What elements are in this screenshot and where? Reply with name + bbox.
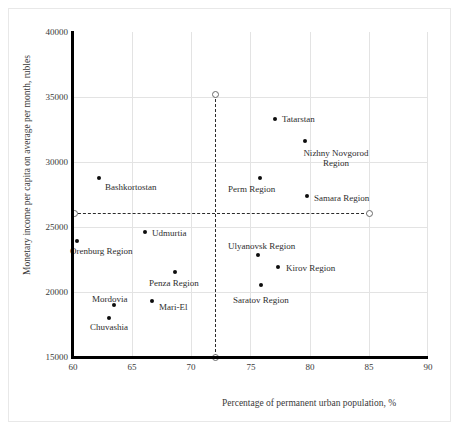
data-label-tatarstan: Tatarstan: [282, 114, 315, 124]
gridline-horizontal: [73, 162, 428, 163]
data-label-nizhny-novgorod-region: Nizhny Novgorod Region: [301, 148, 371, 168]
y-tick-label-15000: 15000: [22, 352, 68, 362]
gridline-vertical: [191, 32, 192, 357]
data-point-ulyanovsk-region[interactable]: [256, 253, 260, 257]
median-vertical-top-marker: [212, 91, 219, 98]
gridline-horizontal: [73, 292, 428, 293]
chart-screenshot: 40000 35000 30000 25000 20000 15000 60 6…: [0, 0, 461, 431]
x-tick-label-85: 85: [349, 362, 389, 372]
data-point-nizhny-novgorod-region[interactable]: [303, 139, 307, 143]
data-label-ulyanovsk-region: Ulyanovsk Region: [228, 241, 295, 251]
gridline-vertical: [427, 32, 428, 357]
data-point-chuvashia[interactable]: [107, 316, 111, 320]
data-point-udmurtia[interactable]: [143, 230, 147, 234]
x-tick-label-60: 60: [53, 362, 93, 372]
data-point-samara-region[interactable]: [305, 194, 309, 198]
x-tick-label-70: 70: [171, 362, 211, 372]
data-label-bashkortostan: Bashkortostan: [105, 182, 157, 192]
median-horizontal-right-marker: [366, 210, 373, 217]
data-label-kirov-region: Kirov Region: [286, 263, 335, 273]
data-label-samara-region: Samara Region: [314, 193, 369, 203]
median-line-horizontal: [73, 213, 369, 214]
data-point-orenburg-region[interactable]: [75, 239, 79, 243]
x-axis-line: [71, 356, 428, 359]
scatter-chart: 40000 35000 30000 25000 20000 15000 60 6…: [0, 0, 461, 431]
x-tick-label-90: 90: [408, 362, 448, 372]
gridline-horizontal: [73, 97, 428, 98]
median-line-vertical: [215, 94, 216, 357]
data-point-tatarstan[interactable]: [273, 117, 277, 121]
y-axis-title: Monetary income per capita on average pe…: [22, 20, 32, 310]
data-point-penza-region[interactable]: [173, 270, 177, 274]
data-point-bashkortostan[interactable]: [97, 176, 101, 180]
data-label-orenburg-region: Orenburg Region: [70, 246, 133, 256]
data-label-udmurtia: Udmurtia: [152, 228, 187, 238]
x-tick-label-75: 75: [231, 362, 271, 372]
data-label-mari-el: Mari-El: [159, 302, 188, 312]
x-tick-label-80: 80: [290, 362, 330, 372]
gridline-horizontal: [73, 227, 428, 228]
y-axis-line: [71, 31, 74, 359]
gridline-vertical: [132, 32, 133, 357]
x-axis-title: Percentage of permanent urban population…: [222, 398, 396, 408]
data-point-saratov-region[interactable]: [259, 283, 263, 287]
x-tick-label-65: 65: [112, 362, 152, 372]
data-label-mordovia: Mordovia: [92, 294, 128, 304]
data-label-saratov-region: Saratov Region: [233, 295, 289, 305]
gridline-vertical: [250, 32, 251, 357]
data-label-perm-region: Perm Region: [228, 184, 275, 194]
data-point-perm-region[interactable]: [258, 176, 262, 180]
data-label-chuvashia: Chuvashia: [90, 322, 128, 332]
data-point-mari-el[interactable]: [150, 299, 154, 303]
data-point-kirov-region[interactable]: [276, 265, 280, 269]
data-label-penza-region: Penza Region: [149, 278, 199, 288]
gridline-vertical: [310, 32, 311, 357]
plot-region: Bashkortostan Tatarstan Nizhny Novgorod …: [73, 32, 428, 357]
